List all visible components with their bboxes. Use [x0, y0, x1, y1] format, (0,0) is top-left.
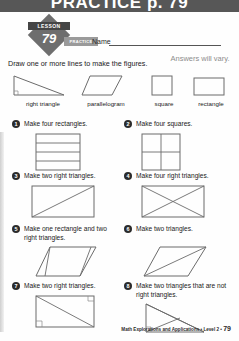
- worksheet-page: PRACTICE LESSON 79 Name Draw one or more…: [0, 12, 239, 341]
- footer-page-number: 79: [223, 325, 231, 332]
- square-icon: [150, 74, 174, 98]
- problem-number: 3: [12, 172, 20, 180]
- square-split-quadrants-figure: [140, 132, 188, 172]
- problem-number: 8: [124, 282, 132, 290]
- page-footer: Math Explorations and Applications • Lev…: [0, 325, 231, 332]
- parallelogram-one-diagonal-figure: [142, 245, 214, 279]
- right-triangle-icon: [12, 74, 68, 98]
- problem-text: Make two right triangles.: [24, 282, 116, 291]
- example-label: parallelogram: [72, 100, 140, 107]
- problem-text: Make two triangles that are not right tr…: [136, 282, 228, 299]
- problem-text: Make two triangles.: [136, 225, 228, 234]
- problem-number: 6: [124, 225, 132, 233]
- lesson-badge: PRACTICE LESSON 79: [26, 16, 82, 64]
- problem-number: 5: [12, 225, 20, 233]
- problem-number: 1: [12, 120, 20, 128]
- example-label: square: [142, 100, 186, 107]
- rectangle-icon: [192, 74, 226, 98]
- problem-text: Make one rectangle and two right triangl…: [24, 225, 116, 242]
- example-rectangle: rectangle: [186, 74, 236, 98]
- rectangle-both-diagonals-figure: [140, 184, 212, 220]
- page-left-edge-shadow: [0, 132, 4, 332]
- problem-figure[interactable]: [140, 184, 212, 220]
- problem-text: Make two right triangles.: [24, 172, 116, 181]
- name-input-line[interactable]: [109, 45, 221, 46]
- problem-text: Make four right triangles.: [136, 172, 228, 181]
- problem-figure[interactable]: [30, 184, 100, 220]
- problem-number: 2: [124, 120, 132, 128]
- problem-figure[interactable]: [34, 132, 90, 172]
- parallelogram-two-verticals-figure: [34, 245, 106, 279]
- example-square: square: [142, 74, 186, 98]
- problem-number: 4: [124, 172, 132, 180]
- rectangle-split-4-horizontal-figure: [34, 132, 90, 172]
- footer-source: Math Explorations and Applications • Lev…: [121, 327, 222, 332]
- problem-figure[interactable]: [140, 132, 188, 172]
- answers-will-vary-note: Answers will vary.: [164, 54, 236, 63]
- problem-figure[interactable]: [142, 245, 214, 279]
- top-banner: PRACTICE p. 79: [0, 0, 239, 12]
- problem-text: Make four rectangles.: [24, 120, 116, 129]
- problem-figure[interactable]: [34, 245, 106, 279]
- example-figures-row: right triangle parallelogram square rect…: [0, 74, 239, 114]
- banner-title: PRACTICE p. 79: [0, 0, 239, 12]
- problem-text: Make four squares.: [136, 120, 228, 129]
- rectangle-one-diagonal-figure: [30, 184, 100, 220]
- badge-lesson-number: 79: [28, 31, 70, 46]
- example-parallelogram: parallelogram: [72, 74, 140, 98]
- example-label: rectangle: [186, 100, 236, 107]
- problem-number: 7: [12, 282, 20, 290]
- instruction-text: Draw one or more lines to make the figur…: [8, 59, 147, 68]
- name-label: Name: [92, 38, 111, 45]
- parallelogram-icon: [80, 74, 128, 98]
- badge-lesson-label: LESSON: [28, 22, 70, 30]
- example-right-triangle: right triangle: [12, 74, 74, 98]
- example-label: right triangle: [12, 100, 74, 107]
